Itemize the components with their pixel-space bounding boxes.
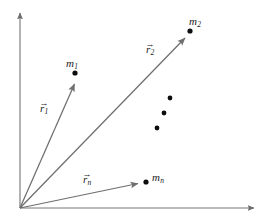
mass-dot-mn	[143, 179, 148, 184]
vector-accent-icon: →	[83, 170, 92, 179]
vector-diagram-figure: m1 m2 mn →r1 →r2 →rn	[0, 0, 270, 220]
vector-accent-icon: →	[146, 40, 155, 49]
vector-label-rn: →rn	[83, 174, 91, 187]
ellipsis-dot-1	[168, 96, 173, 101]
vector-accent-icon: →	[40, 99, 49, 108]
mass-label-m1-symbol: m	[66, 57, 74, 69]
vector-label-rn-subscript: n	[87, 178, 91, 187]
axes-group	[20, 13, 254, 208]
mass-label-mn: mn	[152, 172, 164, 185]
vector-label-r1: →r1	[40, 103, 48, 116]
mass-label-mn-subscript: n	[160, 176, 164, 185]
ellipsis-dot-3	[155, 126, 160, 131]
vector-label-r2: →r2	[146, 44, 154, 57]
mass-dots-group	[72, 28, 192, 184]
mass-label-mn-symbol: m	[152, 171, 160, 183]
vector-rn	[20, 184, 138, 209]
mass-label-m2-symbol: m	[189, 15, 197, 27]
vector-arrow-accent-r2: →r	[146, 44, 150, 55]
mass-label-m2-subscript: 2	[197, 20, 201, 29]
mass-dot-m1	[72, 70, 77, 75]
vector-arrow-accent-rn: →r	[83, 174, 87, 185]
mass-label-m2: m2	[189, 16, 201, 29]
mass-label-m1-subscript: 1	[74, 62, 78, 71]
vector-arrow-accent-r1: →r	[40, 103, 44, 114]
ellipsis-dots-group	[155, 96, 173, 131]
vector-label-r1-subscript: 1	[44, 107, 48, 116]
vector-label-r2-subscript: 2	[150, 48, 154, 57]
mass-label-m1: m1	[66, 58, 78, 71]
mass-dot-m2	[187, 28, 192, 33]
ellipsis-dot-2	[162, 111, 167, 116]
